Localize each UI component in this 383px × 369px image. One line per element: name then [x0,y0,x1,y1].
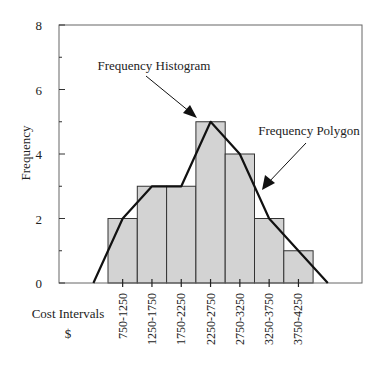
x-tick-label: 1250-1750 [145,293,159,345]
histogram-bar [225,154,254,283]
x-axis-unit: $ [65,326,72,341]
annotation-polygon-label: Frequency Polygon [258,123,360,138]
arrowhead-icon [183,105,197,118]
y-axis: 02468 [36,18,66,291]
frequency-chart: 02468 750-12501250-17501750-22502250-275… [0,0,383,369]
x-tick-label: 1750-2250 [174,293,188,345]
y-tick-label: 4 [36,147,43,162]
histogram-bar [255,219,284,284]
y-tick-label: 2 [36,212,43,227]
annotation-histogram-label: Frequency Histogram [97,58,210,73]
histogram-bar [137,186,166,283]
annotation-frequency-polygon: Frequency Polygon [258,123,360,190]
y-tick-label: 0 [36,276,43,291]
x-tick-label: 3250-3750 [262,293,276,345]
x-tick-label: 750-1250 [116,293,130,339]
x-tick-label: 3750-4250 [291,293,305,345]
y-tick-label: 6 [36,83,43,98]
x-axis-label: Cost Intervals [32,306,105,321]
x-axis: 750-12501250-17501750-22502250-27502750-… [116,279,306,345]
y-tick-label: 8 [36,18,43,33]
x-tick-label: 2750-3250 [233,293,247,345]
histogram-bar [167,186,196,283]
x-tick-label: 2250-2750 [204,293,218,345]
y-axis-label: Frequency [18,125,33,180]
histogram-bar [108,219,137,284]
annotation-frequency-histogram: Frequency Histogram [97,58,210,118]
histogram-bar [284,251,313,283]
